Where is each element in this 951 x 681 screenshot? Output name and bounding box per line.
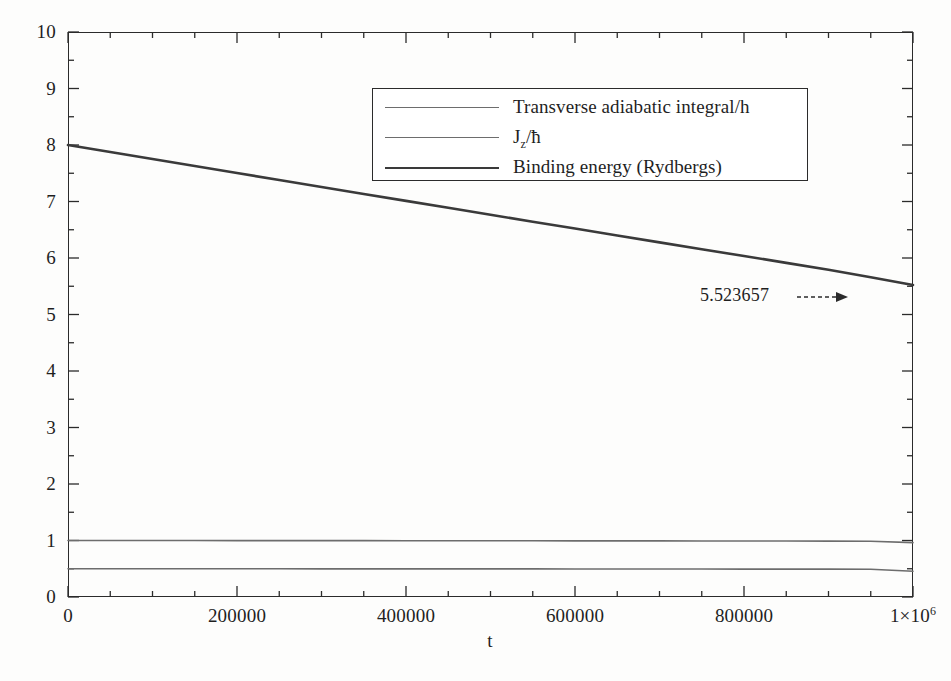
legend-label-jz-tail: /ħ: [526, 126, 541, 147]
y-tick-label-5: 5: [8, 304, 56, 326]
legend-label-jz-hbar: Jz/ħ: [513, 126, 541, 148]
x-tick-label-600000: 600000: [546, 605, 604, 627]
annotation-arrow: [797, 292, 848, 302]
legend-swatch-transverse-adiabatic-integral: [385, 100, 499, 114]
y-tick-label-8: 8: [8, 134, 56, 156]
legend-label-binding-energy: Binding energy (Rydbergs): [513, 156, 722, 178]
y-tick-label-0: 0: [8, 586, 56, 608]
x-tick-label-200000: 200000: [208, 605, 266, 627]
data-series-group: [68, 145, 913, 571]
y-tick-label-2: 2: [8, 473, 56, 495]
x-axis-title: t: [487, 630, 492, 652]
legend-swatch-binding-energy: [385, 160, 499, 174]
x-tick-label-0: 0: [63, 605, 73, 627]
legend-label-jz-base: J: [513, 126, 521, 147]
y-tick-label-9: 9: [8, 78, 56, 100]
legend-swatch-jz-hbar: [385, 130, 499, 144]
series-line-0: [68, 541, 913, 543]
annotation-value: 5.523657: [700, 285, 769, 306]
y-tick-label-6: 6: [8, 247, 56, 269]
legend-entry-jz-hbar: Jz/ħ: [373, 121, 807, 152]
y-tick-label-1: 1: [8, 530, 56, 552]
x-tick-label-1000000: 1×106: [890, 605, 936, 627]
y-tick-label-7: 7: [8, 191, 56, 213]
y-tick-label-3: 3: [8, 417, 56, 439]
x-tick-label-800000: 800000: [715, 605, 773, 627]
legend-box: Transverse adiabatic integral/h Jz/ħ Bin…: [372, 88, 808, 181]
legend-entry-binding-energy: Binding energy (Rydbergs): [373, 151, 807, 182]
chart-figure: 012345678910 02000004000006000008000001×…: [0, 0, 951, 681]
x-tick-label-400000: 400000: [377, 605, 435, 627]
y-tick-label-4: 4: [8, 360, 56, 382]
legend-label-transverse-adiabatic-integral: Transverse adiabatic integral/h: [513, 96, 750, 118]
series-line-1: [68, 569, 913, 572]
y-tick-label-10: 10: [8, 21, 56, 43]
legend-entry-transverse-adiabatic-integral: Transverse adiabatic integral/h: [373, 91, 807, 122]
